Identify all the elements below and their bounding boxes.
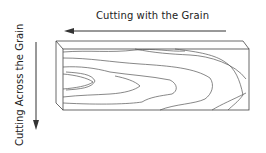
wood-board-diagram [0,0,266,153]
wood-board [56,41,249,110]
across-grain-arrow [33,42,39,130]
grain-lines [63,49,246,110]
with-grain-arrow [64,28,226,34]
